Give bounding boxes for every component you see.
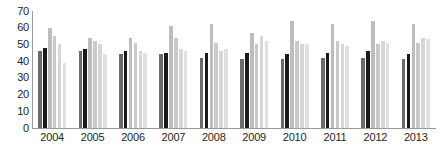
bar bbox=[184, 51, 188, 128]
bar bbox=[255, 44, 259, 128]
bar-group bbox=[72, 11, 112, 128]
bar bbox=[43, 48, 47, 128]
y-tick-label: 0 bbox=[0, 123, 29, 134]
bar bbox=[341, 44, 345, 128]
x-tick-label: 2011 bbox=[315, 131, 355, 144]
y-tick-label: 50 bbox=[0, 39, 29, 50]
bar bbox=[210, 24, 214, 128]
bar bbox=[219, 51, 223, 128]
bar bbox=[103, 54, 107, 128]
bar bbox=[366, 51, 370, 128]
bar-group bbox=[396, 11, 436, 128]
bar bbox=[240, 59, 244, 128]
bar bbox=[169, 26, 173, 128]
bar-chart: 706050403020100 200420052006200720082009… bbox=[0, 0, 443, 151]
bar bbox=[345, 46, 349, 128]
bar bbox=[124, 51, 128, 128]
x-tick-label: 2010 bbox=[274, 131, 314, 144]
bar bbox=[63, 63, 67, 128]
bar bbox=[407, 54, 411, 128]
bar-group bbox=[32, 11, 72, 128]
x-tick-label: 2004 bbox=[32, 131, 72, 144]
bar bbox=[290, 21, 294, 128]
y-tick-label: 60 bbox=[0, 22, 29, 33]
bar-group bbox=[153, 11, 193, 128]
bar bbox=[386, 43, 390, 128]
x-tick-label: 2008 bbox=[194, 131, 234, 144]
x-axis-line bbox=[32, 128, 436, 129]
bar bbox=[336, 41, 340, 128]
bar bbox=[119, 54, 123, 128]
bar bbox=[79, 51, 83, 128]
y-tick-label: 40 bbox=[0, 56, 29, 67]
y-tick-label: 20 bbox=[0, 89, 29, 100]
x-tick-label: 2013 bbox=[396, 131, 436, 144]
bar bbox=[58, 44, 62, 128]
bar bbox=[174, 38, 178, 128]
bar bbox=[83, 49, 87, 128]
bar bbox=[53, 36, 57, 128]
bar bbox=[200, 58, 204, 128]
y-tick-label: 70 bbox=[0, 6, 29, 17]
bar bbox=[245, 53, 249, 128]
bar bbox=[300, 44, 304, 128]
y-tick-label: 30 bbox=[0, 72, 29, 83]
x-tick-label: 2006 bbox=[113, 131, 153, 144]
bar bbox=[179, 49, 183, 128]
bar bbox=[361, 58, 365, 128]
bar-group bbox=[274, 11, 314, 128]
bar-group bbox=[113, 11, 153, 128]
bar bbox=[371, 21, 375, 128]
bar bbox=[285, 54, 289, 128]
x-tick-label: 2005 bbox=[72, 131, 112, 144]
bar bbox=[421, 38, 425, 128]
bar bbox=[93, 41, 97, 128]
y-axis-tick-labels: 706050403020100 bbox=[0, 11, 29, 128]
bar bbox=[416, 43, 420, 128]
bar bbox=[281, 59, 285, 128]
bar bbox=[159, 54, 163, 128]
bar bbox=[250, 33, 254, 128]
y-tick-label: 10 bbox=[0, 106, 29, 117]
bar bbox=[214, 43, 218, 128]
bar bbox=[143, 53, 147, 128]
bar bbox=[412, 24, 416, 128]
bar-group bbox=[194, 11, 234, 128]
x-tick-label: 2007 bbox=[153, 131, 193, 144]
bar bbox=[402, 59, 406, 128]
bar bbox=[376, 44, 380, 128]
plot-area bbox=[32, 11, 436, 128]
bar-group bbox=[315, 11, 355, 128]
bar bbox=[305, 44, 309, 128]
bar bbox=[331, 24, 335, 128]
bar bbox=[164, 53, 168, 128]
bar bbox=[129, 38, 133, 128]
bar bbox=[48, 28, 52, 128]
bar bbox=[265, 41, 269, 128]
bar bbox=[205, 53, 209, 128]
bar bbox=[326, 53, 330, 128]
bar bbox=[88, 38, 92, 128]
bar bbox=[381, 41, 385, 128]
bar bbox=[321, 58, 325, 128]
bar-group bbox=[234, 11, 274, 128]
bar bbox=[426, 39, 430, 128]
bar bbox=[224, 49, 228, 128]
bar bbox=[260, 36, 264, 128]
x-axis-tick-labels: 2004200520062007200820092010201120122013 bbox=[32, 131, 436, 149]
bar bbox=[38, 51, 42, 128]
bar bbox=[98, 44, 102, 128]
bar bbox=[295, 41, 299, 128]
x-tick-label: 2012 bbox=[355, 131, 395, 144]
bar bbox=[134, 43, 138, 128]
bar bbox=[139, 51, 143, 128]
bar-group bbox=[355, 11, 395, 128]
x-tick-label: 2009 bbox=[234, 131, 274, 144]
